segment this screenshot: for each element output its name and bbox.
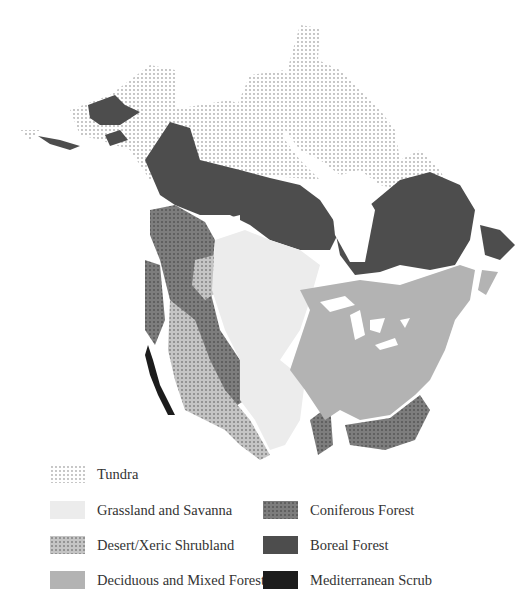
- legend-label-deciduous: Deciduous and Mixed Forest: [97, 572, 265, 589]
- legend-item-boreal: Boreal Forest: [263, 535, 389, 555]
- legend-item-mediterranean: Mediterranean Scrub: [263, 570, 432, 590]
- desert-swatch: [50, 536, 85, 554]
- legend-label-grassland: Grassland and Savanna: [97, 502, 232, 519]
- legend-label-mediterranean: Mediterranean Scrub: [310, 572, 432, 589]
- legend-item-tundra: Tundra: [50, 464, 138, 484]
- legend-item-deciduous: Deciduous and Mixed Forest: [50, 570, 265, 590]
- legend-label-coniferous: Coniferous Forest: [310, 502, 414, 519]
- legend-label-tundra: Tundra: [97, 466, 138, 483]
- mediterranean-swatch: [263, 571, 298, 589]
- coniferous-swatch: [263, 501, 298, 519]
- boreal-swatch: [263, 536, 298, 554]
- legend-label-boreal: Boreal Forest: [310, 537, 389, 554]
- grassland-swatch: [50, 501, 85, 519]
- legend-label-desert: Desert/Xeric Shrubland: [97, 537, 234, 554]
- legend-item-desert: Desert/Xeric Shrubland: [50, 535, 234, 555]
- tundra-swatch: [50, 465, 85, 483]
- legend-item-grassland: Grassland and Savanna: [50, 500, 232, 520]
- biome-map: [0, 0, 529, 460]
- deciduous-mixed-forest-region: [478, 270, 498, 295]
- legend-item-coniferous: Coniferous Forest: [263, 500, 414, 520]
- deciduous-swatch: [50, 571, 85, 589]
